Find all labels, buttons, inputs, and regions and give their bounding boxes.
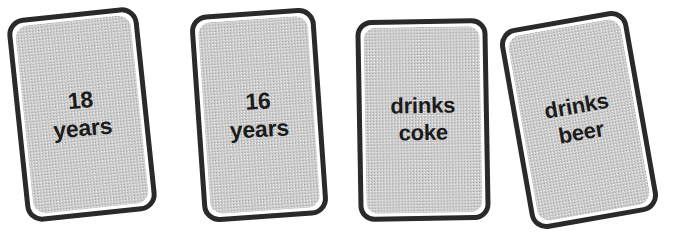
card-label: 16years [228,85,290,144]
card-label: drinksbeer [542,88,615,152]
card-label-line2: years [229,113,290,144]
card-label-line2: years [53,112,114,145]
card-label: 18years [50,84,114,145]
card-16-years[interactable]: 16years [189,7,329,223]
card-18-years[interactable]: 18years [6,6,159,224]
card-label-line1: 16 [228,85,289,116]
card-face: drinksbeer [507,18,652,223]
card-drinks-coke[interactable]: drinkscoke [355,18,491,222]
card-face: drinkscoke [363,26,482,214]
card-label-line1: drinks [390,93,455,121]
card-drinks-beer[interactable]: drinksbeer [497,8,660,231]
card-face: 16years [197,15,320,214]
card-label-line2: coke [391,119,456,147]
card-face: 18years [14,14,149,214]
card-label: drinkscoke [390,93,456,148]
card-scene: 18years16yearsdrinkscokedrinksbeer [0,0,682,245]
